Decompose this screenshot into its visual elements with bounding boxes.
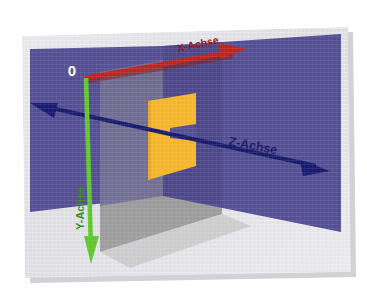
coordinate-system-figure: 0 X-Achse Y-Achse Z-Achse bbox=[0, 0, 367, 296]
image-texture-overlay bbox=[22, 27, 351, 278]
figure-root: 0 X-Achse Y-Achse Z-Achse bbox=[0, 0, 367, 296]
